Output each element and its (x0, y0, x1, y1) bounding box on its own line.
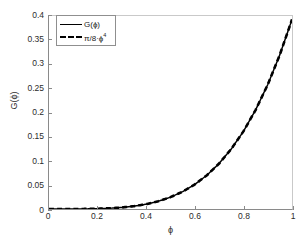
x-tick-label: 0.4 (126, 212, 166, 221)
y-tick-mark (48, 39, 52, 40)
y-tick-mark (48, 137, 52, 138)
x-tick-mark (146, 206, 147, 210)
legend-line-sample-solid-icon (60, 20, 82, 30)
x-axis-title: ϕ (48, 226, 293, 235)
legend: G(ϕ) π/8·ϕ4 (56, 15, 116, 46)
legend-entry: π/8·ϕ4 (57, 31, 115, 45)
y-tick-label: 0.3 (0, 59, 44, 68)
x-tick-label: 1 (273, 212, 308, 221)
y-tick-mark (48, 113, 52, 114)
figure-canvas: 0.4 0.35 0.3 0.25 0.2 0.15 0.1 0.05 0 0 … (0, 0, 308, 248)
y-axis-title: G(ϕ) (10, 71, 19, 131)
y-tick-mark (48, 15, 52, 16)
legend-entry-label: G(ϕ) (84, 21, 100, 29)
x-tick-label: 0.2 (77, 212, 117, 221)
x-tick-label: 0.6 (175, 212, 215, 221)
y-tick-label: 0.4 (0, 11, 44, 20)
y-tick-mark (48, 186, 52, 187)
x-tick-mark (48, 206, 49, 210)
y-tick-mark (48, 210, 52, 211)
legend-entry-label: π/8·ϕ4 (84, 33, 106, 43)
x-tick-label: 0 (28, 212, 68, 221)
series-line-pi8-phi4 (49, 20, 292, 209)
y-tick-label: 0.05 (0, 181, 44, 190)
legend-line-sample-dashed-icon (60, 33, 82, 43)
legend-entry-base: π/8·ϕ (84, 34, 103, 43)
y-tick-mark (48, 88, 52, 89)
x-tick-mark (195, 206, 196, 210)
y-tick-mark (48, 161, 52, 162)
y-tick-mark (48, 64, 52, 65)
y-tick-label: 0.25 (0, 84, 44, 93)
y-tick-label: 0.35 (0, 35, 44, 44)
y-tick-label: 0.2 (0, 108, 44, 117)
x-tick-mark (293, 206, 294, 210)
x-tick-mark (97, 206, 98, 210)
x-tick-label: 0.8 (224, 212, 264, 221)
legend-entry: G(ϕ) (57, 18, 115, 32)
y-tick-label: 0.1 (0, 157, 44, 166)
series-line-g-phi (49, 20, 292, 209)
x-tick-mark (244, 206, 245, 210)
y-tick-label: 0.15 (0, 132, 44, 141)
legend-entry-exponent: 4 (103, 32, 106, 38)
